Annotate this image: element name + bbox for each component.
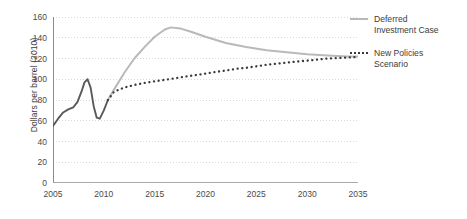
series-new-policies-scenario <box>108 57 358 100</box>
y-tick-label: 0 <box>0 178 47 188</box>
y-axis-title: Dollars per barrel (2010) <box>29 5 39 165</box>
series-lines <box>53 27 358 126</box>
gridlines <box>53 17 358 162</box>
x-tick-label: 2035 <box>349 189 368 199</box>
legend-label-line2: Scenario <box>374 59 466 70</box>
plot-area <box>53 17 358 183</box>
legend-label-line1: New Policies <box>374 48 466 59</box>
legend-entry: DeferredInvestment Case <box>374 14 466 35</box>
x-tick-label: 2030 <box>298 189 317 199</box>
legend-entry: New PoliciesScenario <box>374 48 466 69</box>
y-tick-label: 160 <box>0 12 47 22</box>
y-tick-label: 40 <box>0 137 47 147</box>
legend-label: DeferredInvestment Case <box>374 14 466 35</box>
chart-legend: DeferredInvestment CaseNew PoliciesScena… <box>374 14 466 82</box>
x-tick-label: 2010 <box>94 189 113 199</box>
y-tick-label: 80 <box>0 95 47 105</box>
legend-line-swatch-icon <box>350 18 368 20</box>
x-tick-label: 2005 <box>44 189 63 199</box>
series-deferred-investment-case <box>108 27 358 100</box>
legend-label-line1: Deferred <box>374 14 466 25</box>
chart-svg <box>53 17 358 183</box>
oil-price-chart-figure: Dollars per barrel (2010) 02040608010012… <box>0 0 467 219</box>
y-tick-label: 120 <box>0 54 47 64</box>
series-historical <box>53 79 108 126</box>
legend-label: New PoliciesScenario <box>374 48 466 69</box>
y-tick-label: 20 <box>0 157 47 167</box>
y-tick-label: 100 <box>0 74 47 84</box>
legend-label-line2: Investment Case <box>374 25 466 36</box>
x-tick-label: 2020 <box>196 189 215 199</box>
legend-line-swatch-icon <box>350 52 368 54</box>
y-tick-label: 140 <box>0 33 47 43</box>
y-tick-label: 60 <box>0 116 47 126</box>
x-tick-label: 2015 <box>145 189 164 199</box>
x-tick-label: 2025 <box>247 189 266 199</box>
